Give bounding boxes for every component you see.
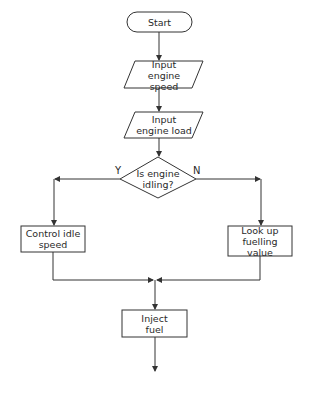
- start-label: Start: [127, 12, 192, 32]
- input-speed-label: Input engine speed: [134, 62, 194, 88]
- inject-label: Inject fuel: [132, 310, 177, 337]
- no-branch-label: N: [193, 165, 200, 176]
- input-load-label: Input engine load: [134, 112, 194, 138]
- decision-label: Is engine idling?: [133, 166, 183, 192]
- yes-branch-label: Y: [115, 165, 121, 176]
- control-idle-label: Control idle speed: [21, 226, 85, 252]
- lookup-label: Look up fuelling value: [228, 228, 292, 254]
